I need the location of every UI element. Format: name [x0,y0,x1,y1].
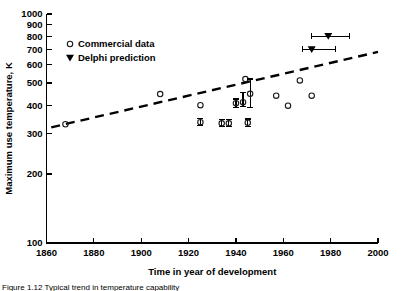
series-commercial-data [63,76,315,127]
x-axis-title: Time in year of development [148,266,277,277]
x-tick-label: 2000 [367,247,388,258]
legend: Commercial dataDelphi prediction [66,38,156,63]
x-tick-label: 1940 [225,247,246,258]
y-tick-label: 900 [27,19,43,30]
data-point-commercial [198,102,203,107]
y-tick-label: 400 [27,100,43,111]
legend-marker-commercial [67,41,72,46]
data-point-commercial [157,91,162,96]
legend-label-delphi: Delphi prediction [78,52,156,63]
legend-label-commercial: Commercial data [78,38,155,49]
figure-caption-text: Figure 1.12 Typical trend in temperature… [2,283,179,291]
data-point-commercial [273,93,278,98]
y-tick-label: 1000 [21,8,42,19]
trend-line-dashed [51,52,378,127]
y-tick-label: 800 [27,31,43,42]
y-tick-label: 300 [27,128,43,139]
y-tick-label: 600 [27,59,43,70]
y-tick-label: 200 [27,168,43,179]
chart-canvas: 1002003004005006007008009001000186018801… [0,0,401,291]
x-tick-label: 1860 [36,247,57,258]
legend-marker-delphi [66,55,74,62]
x-tick-label: 1900 [131,247,152,258]
y-tick-label: 500 [27,77,43,88]
x-tick-label: 1880 [83,247,104,258]
data-point-commercial [285,103,290,108]
x-tick-label: 1920 [178,247,199,258]
data-point-commercial [297,78,302,83]
y-tick-label: 700 [27,44,43,55]
figure-container: 1002003004005006007008009001000186018801… [0,0,401,291]
y-axis-title: Maximum use temperature, K [3,62,14,195]
figure-caption: Figure 1.12 Typical trend in temperature… [0,279,401,291]
x-tick-label: 1980 [320,247,341,258]
series-delphi-prediction [302,33,349,53]
x-tick-label: 1960 [273,247,294,258]
data-point-commercial [309,93,314,98]
